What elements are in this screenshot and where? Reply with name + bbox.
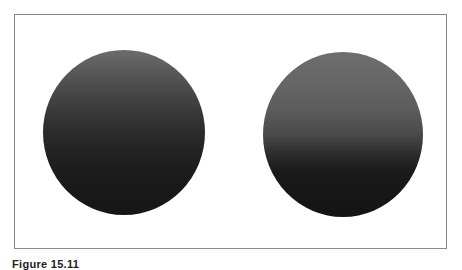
shaded-sphere-left xyxy=(43,50,205,215)
figure-caption: Figure 15.11 xyxy=(12,258,79,270)
shaded-sphere-right xyxy=(263,52,423,217)
